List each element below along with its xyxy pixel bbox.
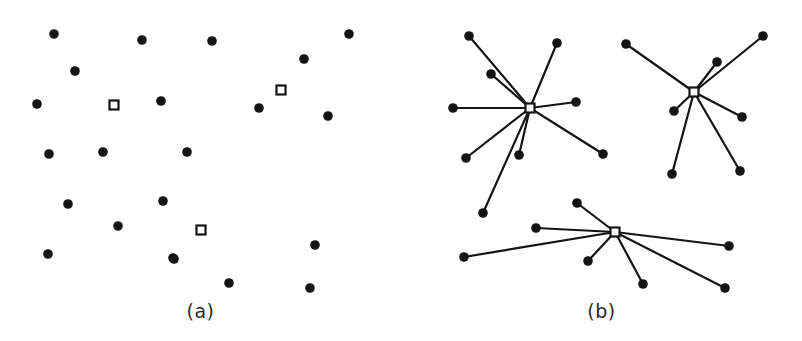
cluster-center-marker-0 [110,101,119,110]
data-point-2 [207,36,217,46]
panel-a-caption: (a) [0,300,401,322]
data-point-20 [224,278,234,288]
cluster-1-member-1 [552,38,562,48]
cluster-edge-7 [530,108,603,154]
cluster-edge-14 [672,92,694,174]
data-point-21 [305,283,315,293]
panel-b-clusters: (b) [401,0,802,341]
cluster-edge-10 [694,36,763,92]
cluster-center-marker-2 [611,228,620,237]
cluster-3-member-2 [459,252,469,262]
cluster-2-member-6 [735,166,745,176]
cluster-3-member-6 [720,283,730,293]
cluster-edge-21 [615,232,729,246]
data-point-9 [323,111,333,121]
data-point-12 [182,147,192,157]
cluster-1-member-4 [571,97,581,107]
cluster-edge-18 [464,232,615,257]
cluster-2-member-2 [712,57,722,67]
data-point-13 [63,199,73,209]
cluster-3-member-0 [572,198,582,208]
data-point-7 [156,96,166,106]
cluster-1-member-7 [598,149,608,159]
cluster-1-member-3 [448,103,458,113]
cluster-3-member-1 [531,223,541,233]
data-point-11 [98,147,108,157]
cluster-3-member-5 [724,241,734,251]
cluster-center-marker-0 [526,104,535,113]
cluster-edge-16 [577,203,615,232]
cluster-edge-17 [536,228,615,232]
cluster-edge-4 [530,102,576,108]
data-point-15 [310,240,320,250]
cluster-edge-9 [626,44,694,92]
cluster-3 [459,198,734,293]
cluster-1-member-6 [514,150,524,160]
panel-a-scatter: (a) [0,0,401,341]
cluster-3-member-3 [583,256,593,266]
data-point-10 [44,149,54,159]
cluster-1-member-5 [461,153,471,163]
cluster-center-marker-1 [277,86,286,95]
cluster-edge-0 [469,36,530,108]
clustering-figure: (a) (b) [0,0,802,341]
panel-a-canvas [0,0,401,341]
cluster-edge-1 [530,43,557,108]
data-point-6 [32,99,42,109]
data-point-18 [43,249,53,259]
cluster-1 [448,31,608,218]
cluster-center-marker-1 [690,88,699,97]
cluster-center-marker-2 [197,226,206,235]
cluster-edge-2 [491,74,530,108]
data-point-5 [70,66,80,76]
cluster-2-member-1 [758,31,768,41]
data-point-3 [344,29,354,39]
cluster-2-member-5 [667,169,677,179]
cluster-1-member-2 [486,69,496,79]
panel-b-canvas [401,0,802,341]
data-point-16 [113,221,123,231]
panel-b-caption: (b) [401,300,802,322]
cluster-2-member-4 [737,112,747,122]
cluster-3-member-4 [638,279,648,289]
cluster-2-member-0 [621,39,631,49]
cluster-2-member-3 [669,106,679,116]
cluster-1-member-8 [478,208,488,218]
data-point-19 [168,253,178,263]
data-point-4 [299,54,309,64]
cluster-1-member-0 [464,31,474,41]
cluster-edge-22 [615,232,725,288]
cluster-2 [621,31,768,179]
cluster-edge-8 [483,108,530,213]
data-point-1 [137,35,147,45]
data-point-0 [49,29,59,39]
data-point-8 [254,103,264,113]
data-point-14 [158,196,168,206]
